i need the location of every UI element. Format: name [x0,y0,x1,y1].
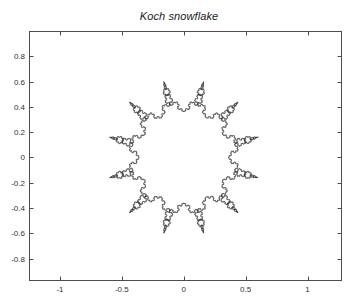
x-tick-label: -0.5 [115,285,129,294]
x-tick-label: 0 [182,285,186,294]
plot-axes [0,0,358,308]
y-tick-label: 0.6 [14,77,25,86]
y-tick-label: 0.8 [14,52,25,61]
x-tick-label: -1 [56,285,63,294]
y-tick-label: 0 [21,153,25,162]
axes-box [30,32,342,281]
axis-ticks [30,32,342,281]
koch-snowflake-curve [110,82,258,233]
y-tick-label: 0.2 [14,128,25,137]
x-tick-label: 0.5 [240,285,251,294]
y-tick-label: -0.4 [11,203,25,212]
figure-canvas: Koch snowflake 0.80.60.40.20-0.2-0.4-0.6… [0,0,358,308]
y-tick-label: 0.4 [14,102,25,111]
y-tick-label: -0.2 [11,178,25,187]
y-tick-label: -0.6 [11,229,25,238]
y-tick-label: -0.8 [11,254,25,263]
x-tick-label: 1 [305,285,309,294]
